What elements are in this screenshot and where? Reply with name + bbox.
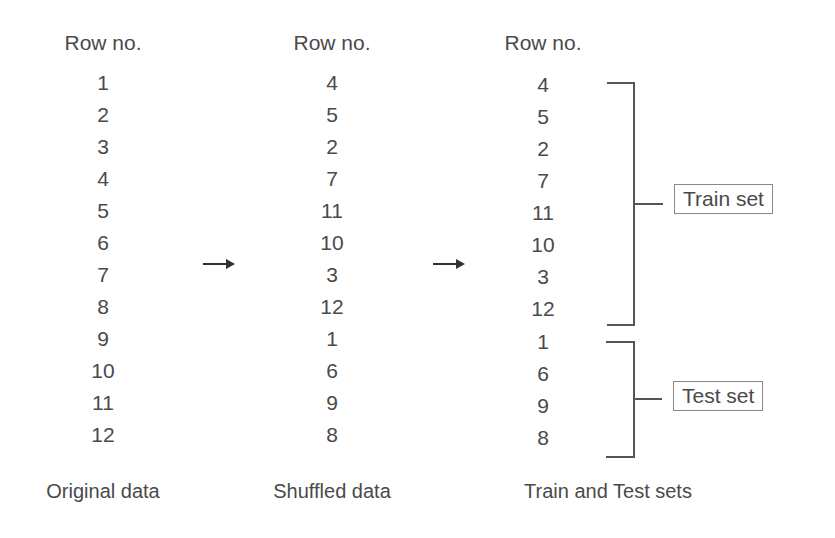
row-number: 6 [537,358,549,390]
row-number: 10 [91,355,114,387]
row-number: 3 [537,261,549,293]
row-number: 2 [537,133,549,165]
row-number: 8 [537,422,549,454]
row-number: 1 [537,326,549,358]
row-number: 12 [531,293,554,325]
column-header: Row no. [293,31,370,55]
column-header: Row no. [64,31,141,55]
row-number: 11 [532,197,554,229]
test-set-label: Test set [673,381,763,411]
row-number: 1 [326,323,338,355]
row-number: 8 [326,419,338,451]
column-caption: Shuffled data [273,480,391,503]
train-set-label: Train set [674,184,773,214]
row-number: 12 [320,291,343,323]
row-number: 8 [97,291,109,323]
row-number: 9 [326,387,338,419]
row-number: 6 [326,355,338,387]
row-number: 4 [326,67,338,99]
train-bracket [607,82,635,326]
row-number: 9 [537,390,549,422]
row-number: 11 [92,387,114,419]
row-number: 4 [97,163,109,195]
column-caption: Train and Test sets [524,480,692,503]
row-number: 2 [97,99,109,131]
test-bracket [606,341,635,458]
column-caption: Original data [46,480,159,503]
row-number: 7 [97,259,109,291]
row-number: 10 [320,227,343,259]
row-number: 7 [326,163,338,195]
train-connector [635,203,663,205]
row-number: 10 [531,229,554,261]
right-arrow-icon [433,263,463,265]
column-header: Row no. [504,31,581,55]
row-number: 6 [97,227,109,259]
row-number: 3 [97,131,109,163]
row-number: 11 [321,195,343,227]
row-number: 7 [537,165,549,197]
right-arrow-icon [203,263,233,265]
row-number: 12 [91,419,114,451]
row-number: 3 [326,259,338,291]
row-number: 4 [537,69,549,101]
row-number: 5 [97,195,109,227]
row-number: 5 [537,101,549,133]
row-number: 1 [97,67,109,99]
row-number: 2 [326,131,338,163]
row-number: 9 [97,323,109,355]
test-connector [635,398,662,400]
row-number: 5 [326,99,338,131]
